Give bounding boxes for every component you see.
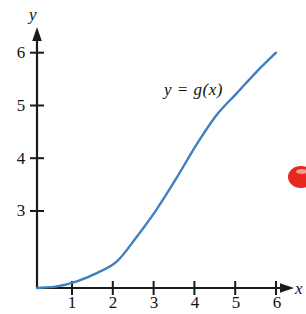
x-axis-label: x bbox=[295, 280, 303, 297]
curve-equation-label: y = g(x) bbox=[164, 81, 223, 98]
x-axis-arrowhead bbox=[280, 283, 294, 293]
y-tick-label-3: 3 bbox=[14, 202, 28, 219]
x-tick-label-3: 3 bbox=[147, 294, 161, 311]
y-axis-label: y bbox=[29, 6, 37, 23]
x-tick-label-6: 6 bbox=[270, 294, 284, 311]
y-tick-label-4: 4 bbox=[14, 150, 28, 167]
graph-figure: y x y = g(x) 6 5 4 3 1 2 3 4 5 6 bbox=[0, 0, 306, 314]
red-ellipse-marker-highlight bbox=[296, 169, 306, 174]
x-tick-label-4: 4 bbox=[188, 294, 202, 311]
plot-area bbox=[0, 0, 306, 314]
y-tick-label-5: 5 bbox=[14, 97, 28, 114]
x-tick-label-1: 1 bbox=[65, 294, 79, 311]
x-tick-label-2: 2 bbox=[106, 294, 120, 311]
function-curve bbox=[37, 53, 276, 288]
y-axis-arrowhead bbox=[32, 27, 42, 41]
y-tick-label-6: 6 bbox=[14, 44, 28, 61]
x-tick-label-5: 5 bbox=[229, 294, 243, 311]
